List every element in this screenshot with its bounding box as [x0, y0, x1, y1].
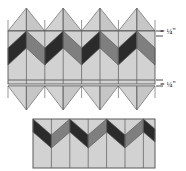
zigzag-top-tri-8 — [137, 8, 155, 31]
top-seam-allowance-label: = ¼" — [160, 27, 176, 36]
zigzag-top-tri-2 — [26, 8, 44, 31]
diagram-canvas — [0, 0, 186, 171]
zigzag-top-tri-7 — [118, 8, 136, 31]
zigzag-top-tri-1 — [8, 8, 26, 31]
bottom-trim-zigzag-row — [8, 86, 155, 110]
zigzag-top-tri-5 — [82, 8, 100, 31]
zigzag-top-tri-4 — [63, 8, 81, 31]
zigzag-bot-tri-8 — [137, 86, 155, 110]
zigzag-bot-tri-5 — [82, 86, 100, 110]
zigzag-bot-tri-1 — [8, 86, 26, 110]
zigzag-bot-tri-4 — [63, 86, 81, 110]
top-trim-zigzag-row — [8, 8, 155, 31]
zigzag-bot-tri-6 — [100, 86, 118, 110]
chevron-quilt-diagram: = ¼" = ¼" — [0, 0, 186, 171]
zigzag-bot-tri-2 — [26, 86, 44, 110]
zigzag-top-tri-6 — [100, 8, 118, 31]
bottom-seam-allowance-label: = ¼" — [160, 80, 176, 89]
finished-chevron-band — [33, 119, 155, 168]
pieced-chevron-body — [8, 31, 155, 84]
zigzag-bot-tri-7 — [118, 86, 136, 110]
zigzag-top-tri-3 — [45, 8, 63, 31]
zigzag-bot-tri-3 — [45, 86, 63, 110]
